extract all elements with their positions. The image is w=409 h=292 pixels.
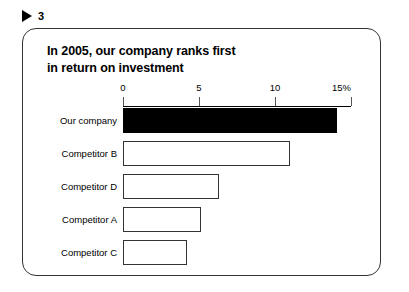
x-axis-tick-label: 15% xyxy=(332,83,351,93)
slide-frame: In 2005, our company ranks first in retu… xyxy=(22,28,381,276)
bar-category-label: Competitor D xyxy=(61,182,117,192)
bar-row: Competitor C xyxy=(23,240,382,265)
slide-number-header: 3 xyxy=(22,8,44,24)
bar-highlighted xyxy=(123,108,337,133)
bar-row: Competitor B xyxy=(23,141,382,166)
bar-category-label: Competitor C xyxy=(61,248,117,258)
slide-number: 3 xyxy=(38,11,44,22)
bar xyxy=(123,141,290,166)
x-axis-tick-mark xyxy=(199,97,200,106)
x-axis-tick-mark xyxy=(123,97,124,106)
x-axis-tick-label: 5 xyxy=(196,83,201,93)
bar-chart-plot: 051015% Our companyCompetitor BCompetito… xyxy=(23,29,382,277)
bar xyxy=(123,240,187,265)
x-axis-tick-mark xyxy=(275,97,276,106)
bar-row: Competitor D xyxy=(23,174,382,199)
bar-category-label: Competitor A xyxy=(62,215,117,225)
bar-category-label: Competitor B xyxy=(62,149,117,159)
x-axis-tick-label: 10 xyxy=(270,83,281,93)
x-axis-tick-mark xyxy=(351,97,352,106)
triangle-right-icon xyxy=(22,10,32,22)
bar-row: Our company xyxy=(23,108,382,133)
bar xyxy=(123,174,219,199)
bar-category-label: Our company xyxy=(60,116,117,126)
bar-row: Competitor A xyxy=(23,207,382,232)
bar xyxy=(123,207,201,232)
x-axis-tick-label: 0 xyxy=(120,83,125,93)
x-axis-line xyxy=(123,106,351,107)
